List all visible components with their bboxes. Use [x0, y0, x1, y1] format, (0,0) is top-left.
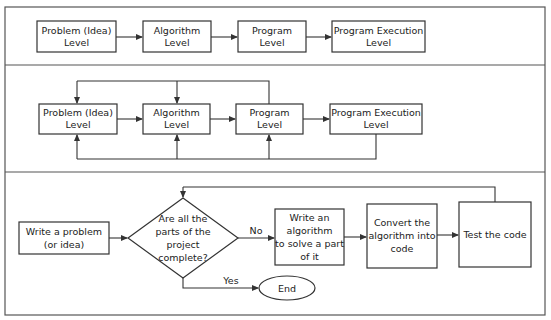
p2-box-execution-level: Program Execution Level [330, 104, 422, 134]
box-label: Problem (Idea) [42, 25, 112, 36]
end-label: End [278, 283, 296, 294]
end-terminal: End [259, 276, 315, 300]
box-label: Program Execution [334, 25, 424, 36]
box-label: Program [249, 107, 289, 118]
decision-label: parts of the [155, 226, 210, 237]
box-label: algorithm into [368, 230, 435, 241]
box-label: Level [64, 37, 89, 48]
box-label: Level [164, 119, 189, 130]
box-label: Write an [290, 212, 330, 223]
box-label: code [391, 243, 414, 254]
p1-box-program-level: Program Level [238, 21, 306, 52]
test-box: Test the code [459, 202, 531, 267]
p2-box-program-level: Program Level [236, 104, 303, 134]
outer-frame [5, 7, 545, 315]
decision-diamond: Are all the parts of the project complet… [128, 198, 238, 278]
box-label: Program Execution [331, 107, 421, 118]
decision-label: Are all the [159, 213, 208, 224]
flowchart-canvas: Problem (Idea) Level Algorithm Level Pro… [0, 0, 551, 320]
box-label: Problem (Idea) [43, 107, 113, 118]
box-label: Level [164, 37, 189, 48]
box-label: Write a problem [26, 226, 102, 237]
box-label: Program [252, 25, 292, 36]
panel-flowchart: Write a problem (or idea) Are all the pa… [19, 187, 531, 300]
feedback-line-bottom [77, 134, 376, 159]
no-label: No [250, 225, 263, 236]
decision-label: complete? [158, 252, 207, 263]
yes-label: Yes [222, 275, 238, 286]
p1-box-execution-level: Program Execution Level [332, 21, 425, 52]
p2-box-problem-level: Problem (Idea) Level [39, 104, 117, 134]
box-label: algorithm [287, 225, 333, 236]
box-label: Level [65, 119, 90, 130]
p1-box-algorithm-level: Algorithm Level [143, 21, 211, 52]
box-label: Test the code [462, 229, 526, 240]
panel-linear-levels: Problem (Idea) Level Algorithm Level Pro… [37, 21, 425, 52]
feedback-line-top [77, 81, 269, 104]
panel-iterative-levels: Problem (Idea) Level Algorithm Level Pro… [39, 81, 422, 159]
box-label: (or idea) [44, 239, 85, 250]
write-algorithm-box: Write an algorithm to solve a part of it [275, 209, 344, 265]
box-label: Level [366, 37, 391, 48]
box-label: to solve a part [275, 238, 344, 249]
box-label: Level [363, 119, 388, 130]
convert-box: Convert the algorithm into code [367, 204, 437, 268]
loop-back-line [183, 187, 495, 202]
box-label: Algorithm [154, 25, 201, 36]
start-box: Write a problem (or idea) [19, 222, 109, 254]
box-label: Convert the [374, 217, 430, 228]
decision-label: project [167, 239, 200, 250]
box-label: Level [257, 119, 282, 130]
box-label: Algorithm [153, 107, 200, 118]
p2-box-algorithm-level: Algorithm Level [143, 104, 210, 134]
p1-box-problem-level: Problem (Idea) Level [37, 21, 116, 52]
box-label: Level [259, 37, 284, 48]
box-label: of it [300, 251, 319, 262]
yes-line [183, 278, 258, 288]
